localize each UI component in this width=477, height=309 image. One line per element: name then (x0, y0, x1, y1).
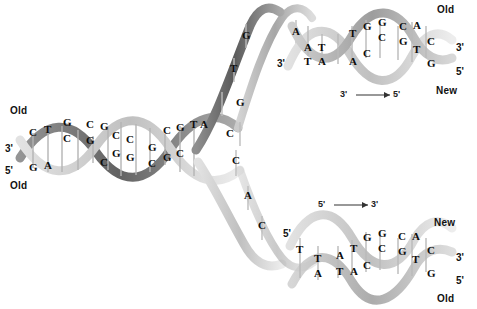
base-pair-top: G (63, 117, 72, 128)
base-pair-bottom: C (363, 260, 371, 271)
base-pair-top: C (126, 134, 134, 145)
base-pair-bottom: G (126, 152, 135, 163)
base-pair-top: C (86, 119, 94, 130)
prime-parent-three: 3' (5, 143, 13, 154)
base-pair-bottom: C (363, 48, 371, 59)
label-old-top-right: Old (437, 4, 454, 15)
bottom-direction-arrow (334, 202, 368, 208)
base-pair-bottom: A (44, 160, 52, 171)
fork-base-lagging: A (244, 190, 252, 201)
base-pair-top: C (112, 130, 120, 141)
top-direction-arrow (356, 92, 390, 98)
label-old-top-left: Old (10, 105, 27, 116)
label-old-bottom-right: Old (437, 293, 454, 304)
label-old-bottom-left: Old (10, 180, 27, 191)
base-pair-top: T (350, 243, 357, 254)
base-pair-bottom: C (63, 133, 71, 144)
base-pair-top: A (318, 56, 326, 67)
base-pair-bottom: C (176, 148, 184, 159)
base-pair-top: C (29, 127, 37, 138)
base-pair-bottom: T (318, 42, 325, 53)
base-pair-top: T (190, 119, 197, 130)
base-pair-bottom: G (427, 58, 436, 69)
base-pair-top: G (363, 21, 372, 32)
fork-base-leading: G (236, 97, 245, 108)
dna-replication-figure: Old Old 3' 5' 3' 5' Old 3' 5' New New 3'… (0, 0, 477, 309)
arrow-top-to: 5' (393, 89, 400, 99)
base-pair-bottom: G (427, 268, 436, 279)
fork-base-leading: T (230, 63, 237, 74)
label-new-bottom-right: New (434, 217, 455, 228)
arrow-bottom-from: 5' (318, 199, 325, 209)
base-pair-top: C (399, 21, 407, 32)
base-pair-bottom: A (350, 266, 358, 277)
base-pair-top: C (163, 125, 171, 136)
base-pair-bottom: G (29, 162, 38, 173)
base-pair-top: C (427, 245, 435, 256)
base-pair-bottom: G (86, 135, 95, 146)
base-pair-top: A (304, 42, 312, 53)
base-pair-bottom: T (413, 44, 420, 55)
base-pair-bottom: C (100, 157, 108, 168)
base-pair-top: T (44, 124, 51, 135)
fork-base-leading: C (226, 128, 234, 139)
fork-base-leading: G (242, 30, 251, 41)
base-pair-bottom: C (378, 32, 386, 43)
base-pair-bottom: G (112, 148, 121, 159)
base-pair-bottom: G (163, 152, 172, 163)
base-pair-top: A (336, 250, 344, 261)
base-pair-bottom: T (412, 254, 419, 265)
label-new-top-right: New (436, 85, 457, 96)
base-loose-bottom: T (296, 244, 303, 255)
base-pair-bottom: T (336, 266, 343, 277)
base-pair-bottom: A (200, 119, 208, 130)
base-pair-bottom: C (148, 158, 156, 169)
base-pair-bottom: A (349, 56, 357, 67)
prime-fork-bottom-five: 5' (283, 228, 291, 239)
prime-bottom-right-five: 5' (456, 275, 464, 286)
base-pair-top: G (363, 232, 372, 243)
base-pair-top: G (100, 121, 109, 132)
base-pair-bottom: G (398, 246, 407, 257)
base-pair-top: G (176, 122, 185, 133)
prime-top-right-three: 3' (456, 42, 464, 53)
arrow-top-from: 3' (340, 89, 347, 99)
base-pair-top: C (427, 36, 435, 47)
base-pair-top: G (378, 228, 387, 239)
base-pair-top: G (378, 17, 387, 28)
base-pair-top: T (349, 28, 356, 39)
base-pair-top: A (412, 231, 420, 242)
prime-parent-five: 5' (5, 165, 13, 176)
base-pair-bottom: T (304, 56, 311, 67)
prime-top-right-five: 5' (456, 66, 464, 77)
base-pair-bottom: A (314, 268, 322, 279)
fork-base-unpaired-light: A (292, 26, 300, 37)
fork-base-lagging: C (232, 155, 240, 166)
base-pair-bottom: G (399, 36, 408, 47)
prime-bottom-right-three: 3' (456, 252, 464, 263)
base-pair-top: A (413, 20, 421, 31)
base-pair-top: G (148, 142, 157, 153)
base-pair-top: T (314, 253, 321, 264)
prime-fork-top-three: 3' (277, 58, 285, 69)
base-pair-top: C (398, 231, 406, 242)
arrow-bottom-to: 3' (371, 199, 378, 209)
fork-base-lagging: C (258, 220, 266, 231)
base-pair-bottom: C (378, 243, 386, 254)
